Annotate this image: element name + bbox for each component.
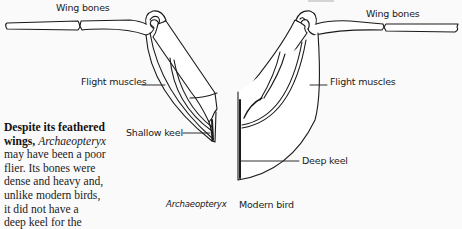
label-flight-muscles-right: Flight muscles	[330, 76, 396, 87]
paragraph-species-name: Archaeopteryx	[38, 135, 106, 148]
label-wing-bones-left: Wing bones	[56, 2, 110, 13]
paragraph-lead-line1: Despite its feathered	[4, 121, 124, 135]
left-outer-wing-bone	[6, 21, 80, 30]
label-flight-muscles-left: Flight muscles	[81, 76, 147, 87]
left-coracoid	[153, 21, 217, 122]
paragraph-lead-line2: wings,	[4, 135, 35, 148]
paragraph-line: may have been a poor	[4, 148, 124, 162]
label-shallow-keel: Shallow keel	[126, 127, 183, 138]
sidebar-paragraph: Despite its feathered wings, Archaeopter…	[4, 121, 124, 229]
paragraph-line: deep keel for the	[4, 216, 124, 229]
label-deep-keel: Deep keel	[302, 155, 348, 166]
right-outer-wing-bone	[384, 24, 458, 32]
caption-modern-bird: Modern bird	[239, 199, 294, 210]
paragraph-line: flier. Its bones were	[4, 162, 124, 176]
cropped-text-fragment	[308, 0, 334, 2]
paragraph-line: unlike modern birds,	[4, 189, 124, 203]
label-wing-bones-right: Wing bones	[366, 8, 420, 19]
modern-bird-skeleton	[238, 11, 458, 180]
paragraph-line: dense and heavy and,	[4, 175, 124, 189]
left-humerus	[80, 20, 154, 35]
caption-archaeopteryx: Archaeopteryx	[166, 199, 227, 210]
paragraph-line: it did not have a	[4, 203, 124, 217]
right-humerus	[308, 21, 384, 35]
